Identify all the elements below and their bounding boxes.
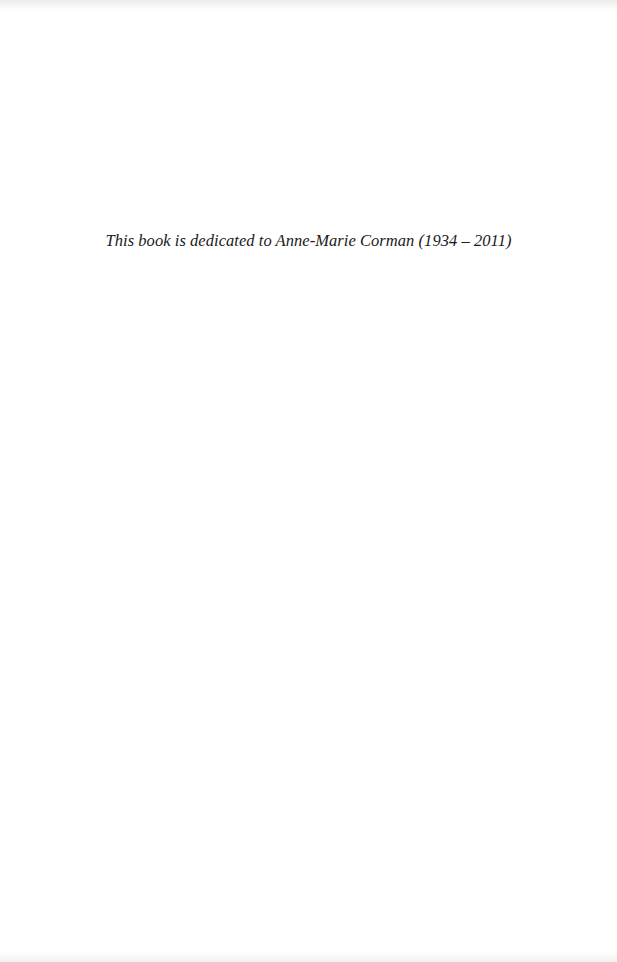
scan-shadow-top: [0, 0, 617, 10]
dedication-text: This book is dedicated to Anne-Marie Cor…: [0, 231, 617, 251]
book-page: This book is dedicated to Anne-Marie Cor…: [0, 0, 617, 962]
scan-shadow-bottom: [0, 952, 617, 962]
